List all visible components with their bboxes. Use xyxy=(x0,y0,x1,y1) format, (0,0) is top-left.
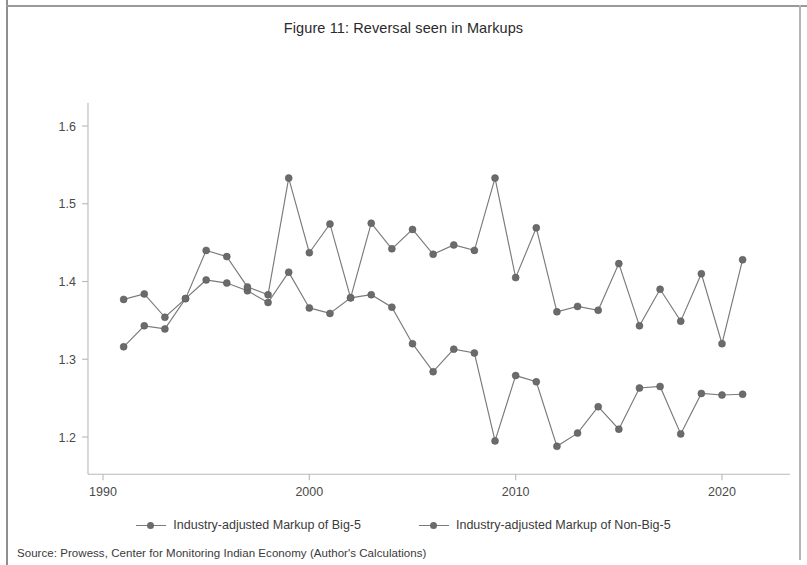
data-point-non-big5 xyxy=(120,296,127,303)
data-point-big5 xyxy=(698,390,705,397)
data-point-non-big5 xyxy=(409,226,416,233)
data-point-big5 xyxy=(306,304,313,311)
data-point-non-big5 xyxy=(595,307,602,314)
data-point-big5 xyxy=(615,426,622,433)
data-point-big5 xyxy=(203,276,210,283)
data-point-big5 xyxy=(512,372,519,379)
data-point-non-big5 xyxy=(739,256,746,263)
series-line-big5 xyxy=(124,272,743,446)
data-point-non-big5 xyxy=(244,283,251,290)
data-point-non-big5 xyxy=(430,251,437,258)
data-point-non-big5 xyxy=(512,274,519,281)
data-point-big5 xyxy=(450,346,457,353)
data-point-non-big5 xyxy=(326,220,333,227)
data-point-big5 xyxy=(739,391,746,398)
source-note: Source: Prowess, Center for Monitoring I… xyxy=(17,547,426,559)
x-tick-label: 2010 xyxy=(502,485,530,499)
series-line-non-big5 xyxy=(124,178,743,344)
data-point-non-big5 xyxy=(471,247,478,254)
data-point-non-big5 xyxy=(368,220,375,227)
legend-marker-icon-non-big5 xyxy=(419,520,449,530)
data-point-non-big5 xyxy=(388,245,395,252)
data-point-non-big5 xyxy=(615,260,622,267)
data-point-non-big5 xyxy=(450,241,457,248)
data-point-non-big5 xyxy=(347,294,354,301)
data-point-big5 xyxy=(533,378,540,385)
data-point-non-big5 xyxy=(657,286,664,293)
data-point-big5 xyxy=(636,385,643,392)
data-point-non-big5 xyxy=(718,340,725,347)
markups-line-chart: 1.21.31.41.51.61990200020102020year xyxy=(0,100,807,500)
y-tick-label: 1.2 xyxy=(59,431,76,445)
data-point-non-big5 xyxy=(306,249,313,256)
data-point-non-big5 xyxy=(677,318,684,325)
data-point-big5 xyxy=(430,368,437,375)
data-point-big5 xyxy=(492,437,499,444)
data-point-big5 xyxy=(595,403,602,410)
data-point-big5 xyxy=(265,299,272,306)
data-point-big5 xyxy=(141,322,148,329)
data-point-big5 xyxy=(161,325,168,332)
data-point-non-big5 xyxy=(636,322,643,329)
legend-label-big5: Industry-adjusted Markup of Big-5 xyxy=(173,518,361,532)
chart-legend: Industry-adjusted Markup of Big-5 Indust… xyxy=(0,518,807,532)
legend-item-non-big5: Industry-adjusted Markup of Non-Big-5 xyxy=(419,518,671,532)
data-point-big5 xyxy=(657,383,664,390)
legend-marker-icon-big5 xyxy=(136,520,166,530)
data-point-big5 xyxy=(677,430,684,437)
data-point-big5 xyxy=(326,310,333,317)
x-tick-label: 2000 xyxy=(295,485,323,499)
data-point-big5 xyxy=(409,340,416,347)
data-point-big5 xyxy=(368,291,375,298)
data-point-big5 xyxy=(718,392,725,399)
y-tick-label: 1.5 xyxy=(59,197,76,211)
figure-page: Figure 11: Reversal seen in Markups 1.21… xyxy=(0,0,807,565)
data-point-big5 xyxy=(223,280,230,287)
legend-item-big5: Industry-adjusted Markup of Big-5 xyxy=(136,518,361,532)
data-point-non-big5 xyxy=(698,270,705,277)
page-title: Figure 11: Reversal seen in Markups xyxy=(0,20,807,36)
legend-label-non-big5: Industry-adjusted Markup of Non-Big-5 xyxy=(456,518,671,532)
data-point-non-big5 xyxy=(492,175,499,182)
data-point-big5 xyxy=(285,269,292,276)
y-tick-label: 1.4 xyxy=(59,275,76,289)
data-point-non-big5 xyxy=(223,253,230,260)
y-tick-label: 1.3 xyxy=(59,353,76,367)
data-point-big5 xyxy=(471,350,478,357)
x-tick-label: 2020 xyxy=(708,485,736,499)
data-point-non-big5 xyxy=(533,224,540,231)
data-point-big5 xyxy=(120,343,127,350)
data-point-non-big5 xyxy=(285,175,292,182)
x-tick-label: 1990 xyxy=(89,485,117,499)
y-tick-label: 1.6 xyxy=(59,120,76,134)
data-point-non-big5 xyxy=(574,303,581,310)
data-point-big5 xyxy=(553,443,560,450)
data-point-big5 xyxy=(574,430,581,437)
data-point-non-big5 xyxy=(141,290,148,297)
data-point-non-big5 xyxy=(203,247,210,254)
data-point-non-big5 xyxy=(182,295,189,302)
data-point-non-big5 xyxy=(553,308,560,315)
data-point-non-big5 xyxy=(161,314,168,321)
chart-plot-area: 1.21.31.41.51.61990200020102020year xyxy=(0,100,807,500)
data-point-non-big5 xyxy=(265,291,272,298)
data-point-big5 xyxy=(388,304,395,311)
page-border-top xyxy=(6,5,807,7)
